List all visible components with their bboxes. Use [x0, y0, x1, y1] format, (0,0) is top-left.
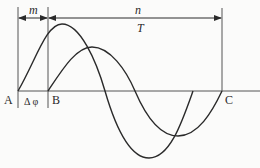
- waveform-graphic: [0, 0, 260, 168]
- label-A: A: [4, 94, 13, 106]
- label-delta-phi: Δ φ: [24, 96, 38, 108]
- label-m: m: [29, 4, 38, 16]
- label-B: B: [52, 94, 60, 106]
- label-n: n: [135, 4, 141, 16]
- label-T: T: [137, 22, 144, 34]
- phase-diagram: m n T A Δ φ B C: [0, 0, 260, 168]
- label-C: C: [225, 94, 233, 106]
